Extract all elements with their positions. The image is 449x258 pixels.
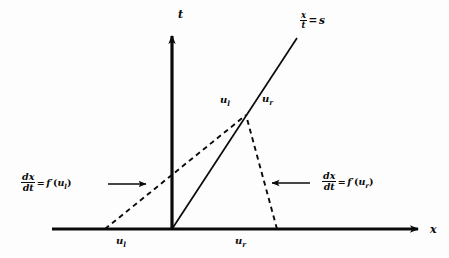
- left-characteristic-speed-equation: dx dt =f′(ul): [21, 172, 71, 192]
- state-label-upper-right: ur: [262, 94, 273, 106]
- shock-speed-label: x t =s: [300, 11, 325, 29]
- state-label-upper-left: ul: [220, 95, 230, 107]
- shock-speed-value: s: [319, 14, 325, 26]
- state-axis-right-sub: r: [242, 240, 246, 249]
- left-eq-fraction: dx dt: [21, 172, 35, 192]
- right-eq-denominator: dt: [322, 182, 336, 192]
- state-upper-right-sub: r: [269, 98, 273, 107]
- shock-speed-equals: =: [307, 14, 319, 26]
- right-eq-equals: =: [336, 176, 347, 187]
- right-eq-close-paren: ): [369, 176, 374, 187]
- diagram-canvas: [0, 0, 449, 258]
- left-eq-denominator: dt: [21, 183, 35, 193]
- right-eq-fraction: dx dt: [322, 171, 336, 191]
- left-characteristic-dashed-line: [105, 115, 246, 229]
- state-axis-left-sub: l: [123, 240, 126, 249]
- left-eq-equals: =: [35, 177, 46, 188]
- t-axis-label: t: [178, 9, 183, 20]
- x-axis-label: x: [430, 224, 437, 235]
- shock-line: [172, 38, 297, 229]
- state-label-axis-left: ul: [116, 236, 126, 248]
- state-upper-left-sub: l: [227, 99, 230, 108]
- right-characteristic-speed-equation: dx dt =f′(ur): [322, 171, 373, 191]
- right-characteristic-dashed-line: [246, 115, 277, 229]
- shock-wave-diagram: t x x t =s ul ur ul ur dx dt =f′(ul) dx …: [0, 0, 449, 258]
- state-label-axis-right: ur: [235, 236, 246, 248]
- left-eq-close-paren: ): [67, 177, 72, 188]
